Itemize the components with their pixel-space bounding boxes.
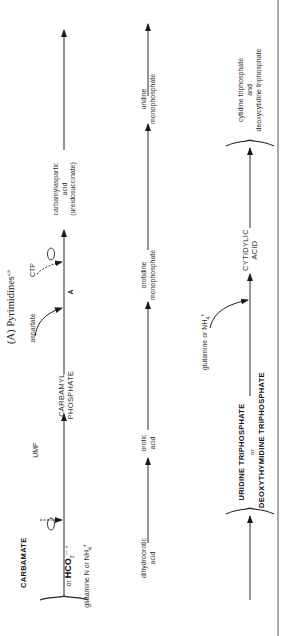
cytidylic-acid-label: CYTIDYLIC ACID [242, 228, 259, 272]
pyrimidine-pathway-diagram: (A) Pyrimidinesa,b CARBAMATE or HCO3— + … [0, 0, 282, 636]
uridine-monophosphate-label: uridine monophosphate [140, 74, 157, 124]
row3-arrows [210, 140, 274, 600]
carbamyl-phosphate-label: CARBAMYL PHOSPHATE [58, 370, 75, 420]
ctp-dctp-label: cytidine triphosphate and deoxycytidine … [236, 42, 263, 138]
row1-arrows [35, 30, 88, 600]
aspartate-label: aspartate [29, 310, 38, 346]
figure-title: (A) Pyrimidinesa,b [5, 270, 16, 344]
utp-dttp-label: URIDINE TRIPHOSPHATE or DEOXYTHYMIDINE T… [237, 396, 267, 508]
carbamate-label: CARBAMATE [20, 554, 29, 588]
dihydroorotic-acid-label: dihydroorotic acid [140, 538, 157, 578]
carbamylaspartic-acid-label: carbamylaspartic acid (ureidosuccinate) [52, 154, 78, 224]
enzyme-a-mark: A [67, 288, 76, 296]
orotidine-monophosphate-label: orotidine monophosphate [140, 250, 157, 300]
bicarbonate-label: or HCO3— + [62, 536, 76, 596]
glutamine-label: glutamine N or NH4+ [80, 534, 94, 618]
ctp-inhibitor-label: CTP [29, 260, 38, 280]
orotic-acid-label: orotic acid [140, 430, 157, 456]
glutamine-nh4-label: glutamine or NH4+ [198, 310, 212, 374]
ump-inhibitor-label: UMP [32, 440, 41, 460]
